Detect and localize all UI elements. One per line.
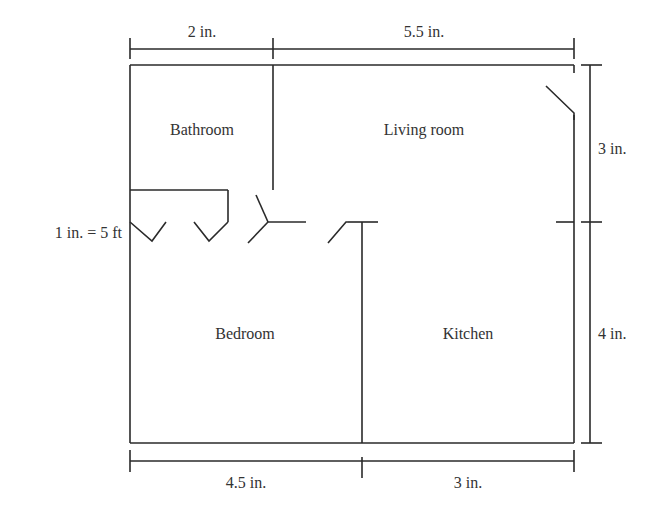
room-label-bedroom: Bedroom	[215, 325, 275, 342]
dim-label-top-left: 2 in.	[188, 23, 216, 40]
dim-label-right-top: 3 in.	[598, 140, 626, 157]
dim-label-right-bottom: 4 in.	[598, 325, 626, 342]
dimension-lines	[130, 38, 602, 478]
room-label-living-room: Living room	[384, 121, 465, 139]
dim-label-bottom-right: 3 in.	[454, 474, 482, 491]
doors	[130, 86, 574, 243]
room-label-bathroom: Bathroom	[170, 121, 235, 138]
dim-label-top-right: 5.5 in.	[404, 23, 444, 40]
room-label-kitchen: Kitchen	[443, 325, 494, 342]
dim-label-bottom-left: 4.5 in.	[226, 474, 266, 491]
floor-plan-diagram: Bathroom Living room Bedroom Kitchen 2 i…	[0, 0, 667, 517]
scale-label: 1 in. = 5 ft	[55, 224, 123, 241]
